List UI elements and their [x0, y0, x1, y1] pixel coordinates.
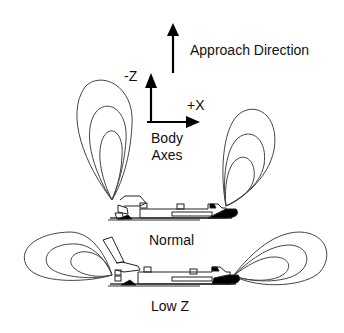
normal-mode-label: Normal [149, 232, 194, 248]
low-z-plume-right-icon [233, 232, 327, 285]
approach-arrow-icon [167, 23, 179, 73]
low-z-mode-label: Low Z [151, 298, 189, 314]
upper-orbiter-icon [108, 196, 238, 220]
body-axes-label-line2: Axes [145, 147, 189, 163]
body-axes-label-line1: Body [145, 130, 189, 146]
normal-plume-right-icon [223, 109, 275, 206]
approach-direction-label: Approach Direction [190, 42, 309, 58]
low-z-plume-left-icon [24, 232, 112, 280]
normal-plume-left-icon [77, 80, 132, 200]
minus-z-axis-label: -Z [124, 68, 137, 84]
plus-x-axis-label: +X [187, 97, 205, 113]
